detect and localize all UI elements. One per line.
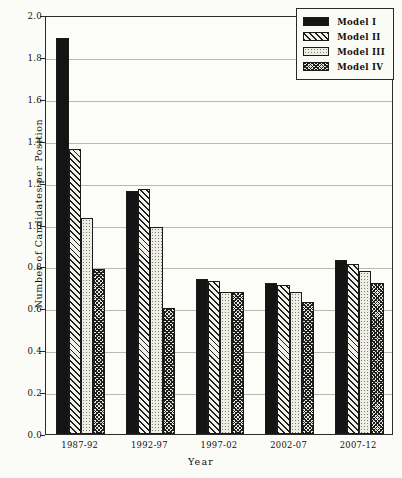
- gridline: [46, 185, 392, 186]
- x-tick-label-1987-92: 1987-92: [44, 440, 116, 450]
- x-axis-title: Year: [0, 456, 402, 467]
- y-tick-label: 1.8: [8, 53, 42, 63]
- legend-item-model-i: Model I: [303, 14, 385, 29]
- bar-2002-07-model-i: [265, 283, 277, 434]
- gridline: [46, 143, 392, 144]
- x-tick-label-1992-97: 1992-97: [113, 440, 185, 450]
- bar-2007-12-model-iii: [359, 271, 371, 434]
- legend-label: Model IV: [337, 62, 383, 72]
- gridline: [46, 101, 392, 102]
- legend-item-model-ii: Model II: [303, 29, 385, 44]
- y-tick-label: 1.0: [8, 221, 42, 231]
- y-tick-label: 0.6: [8, 304, 42, 314]
- legend-label: Model I: [337, 17, 376, 27]
- bar-1997-02-model-ii: [208, 281, 220, 434]
- x-tick-mark: [359, 429, 360, 434]
- legend-swatch-dense-crosshatch: [303, 62, 329, 71]
- bar-chart-figure: Number of Candidates per Position Year M…: [0, 0, 402, 478]
- x-tick-label-2002-07: 2002-07: [253, 440, 325, 450]
- bar-1987-92-model-ii: [69, 149, 81, 434]
- legend-label: Model II: [337, 32, 380, 42]
- x-tick-mark: [220, 429, 221, 434]
- y-tick-label: 0.8: [8, 262, 42, 272]
- legend: Model IModel IIModel IIIModel IV: [296, 8, 394, 80]
- bar-1997-02-model-iv: [232, 292, 244, 434]
- gridline: [46, 227, 392, 228]
- y-tick-label: 1.6: [8, 95, 42, 105]
- bar-1992-97-model-iii: [150, 227, 162, 434]
- x-tick-mark: [150, 429, 151, 434]
- legend-swatch-light-dots: [303, 47, 329, 56]
- bar-2007-12-model-iv: [371, 283, 383, 434]
- bar-2002-07-model-iii: [290, 292, 302, 434]
- y-tick-label: 2.0: [8, 11, 42, 21]
- x-tick-mark: [81, 429, 82, 434]
- legend-swatch-diagonal-hatch: [303, 32, 329, 41]
- bar-2007-12-model-ii: [347, 264, 359, 434]
- bar-2007-12-model-i: [335, 260, 347, 434]
- x-tick-label-1997-02: 1997-02: [183, 440, 255, 450]
- bar-2002-07-model-ii: [277, 285, 289, 434]
- legend-item-model-iv: Model IV: [303, 59, 385, 74]
- bar-1992-97-model-i: [126, 191, 138, 434]
- y-tick-label: 1.4: [8, 137, 42, 147]
- x-tick-mark: [290, 429, 291, 434]
- bar-1987-92-model-iv: [93, 269, 105, 435]
- legend-swatch-solid-black: [303, 17, 329, 26]
- bar-1992-97-model-iv: [163, 308, 175, 434]
- bar-1997-02-model-iii: [220, 292, 232, 434]
- bar-2002-07-model-iv: [302, 302, 314, 434]
- y-tick-label: 0.2: [8, 388, 42, 398]
- x-tick-label-2007-12: 2007-12: [322, 440, 394, 450]
- bar-1997-02-model-i: [196, 279, 208, 434]
- y-axis-title: Number of Candidates per Position: [33, 94, 44, 334]
- y-tick-label: 1.2: [8, 179, 42, 189]
- legend-label: Model III: [337, 47, 385, 57]
- bar-1992-97-model-ii: [138, 189, 150, 434]
- legend-item-model-iii: Model III: [303, 44, 385, 59]
- y-tick-label: 0.4: [8, 346, 42, 356]
- bar-1987-92-model-iii: [81, 218, 93, 434]
- y-tick-label: 0.0: [8, 430, 42, 440]
- bar-1987-92-model-i: [56, 38, 68, 434]
